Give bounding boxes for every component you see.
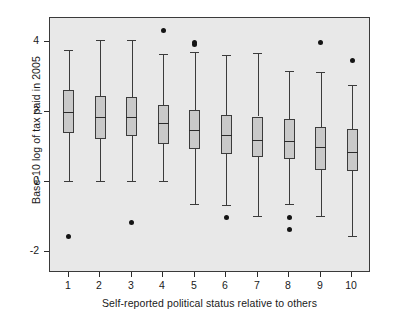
whisker-cap-lower	[253, 216, 262, 217]
whisker-cap-upper	[159, 54, 168, 55]
outlier-point	[66, 234, 71, 239]
x-axis-tick-label: 2	[87, 279, 111, 291]
whisker-cap-lower	[127, 181, 136, 182]
outlier-point	[192, 40, 197, 45]
whisker-cap-lower	[285, 204, 294, 205]
whisker-cap-upper	[222, 55, 231, 56]
whisker-cap-upper	[348, 85, 357, 86]
whisker-cap-lower	[348, 236, 357, 237]
outlier-point	[129, 220, 134, 225]
whisker-upper	[289, 71, 290, 119]
whisker-upper	[195, 52, 196, 110]
median-line	[63, 112, 74, 113]
x-axis-label: Self-reported political status relative …	[49, 297, 370, 309]
y-axis-tick-label: 0	[13, 174, 39, 186]
whisker-upper	[100, 40, 101, 96]
y-axis-tick-label: 2	[13, 104, 39, 116]
whisker-cap-upper	[127, 40, 136, 41]
outlier-point	[287, 215, 292, 220]
whisker-upper	[352, 85, 353, 129]
whisker-cap-upper	[96, 40, 105, 41]
y-axis-tick-mark	[44, 181, 49, 182]
y-axis-tick-label: -2	[13, 244, 39, 256]
box-iqr	[315, 127, 326, 170]
whisker-cap-upper	[285, 71, 294, 72]
whisker-cap-lower	[159, 181, 168, 182]
median-line	[126, 117, 137, 118]
median-line	[189, 130, 200, 131]
whisker-upper	[226, 55, 227, 116]
whisker-lower	[226, 154, 227, 205]
x-axis-tick-label: 3	[119, 279, 143, 291]
plot-area	[50, 18, 369, 271]
x-axis-tick-mark	[257, 272, 258, 277]
whisker-cap-upper	[316, 72, 325, 73]
whisker-cap-lower	[316, 216, 325, 217]
outlier-point	[287, 227, 292, 232]
median-line	[347, 152, 358, 153]
x-axis-tick-mark	[194, 272, 195, 277]
median-line	[221, 135, 232, 136]
whisker-lower	[258, 157, 259, 216]
whisker-cap-upper	[253, 53, 262, 54]
whisker-lower	[289, 159, 290, 204]
median-line	[284, 141, 295, 142]
whisker-upper	[163, 54, 164, 105]
whisker-cap-upper	[190, 52, 199, 53]
x-axis-tick-mark	[162, 272, 163, 277]
outlier-point	[161, 28, 166, 33]
x-axis-tick-label: 6	[213, 279, 237, 291]
box-iqr	[252, 117, 263, 158]
y-axis-tick-mark	[44, 251, 49, 252]
box-iqr	[158, 105, 169, 144]
x-axis-tick-mark	[131, 272, 132, 277]
x-axis-tick-mark	[99, 272, 100, 277]
x-axis-tick-label: 4	[150, 279, 174, 291]
whisker-cap-upper	[64, 50, 73, 51]
x-axis-tick-mark	[351, 272, 352, 277]
x-axis-tick-label: 5	[182, 279, 206, 291]
box-iqr	[284, 119, 295, 158]
x-axis-tick-mark	[68, 272, 69, 277]
whisker-lower	[100, 139, 101, 182]
x-axis-tick-mark	[288, 272, 289, 277]
whisker-lower	[132, 136, 133, 181]
whisker-upper	[258, 53, 259, 117]
whisker-cap-lower	[96, 181, 105, 182]
y-axis-tick-mark	[44, 111, 49, 112]
whisker-lower	[195, 149, 196, 204]
median-line	[158, 123, 169, 124]
whisker-lower	[352, 171, 353, 236]
x-axis-tick-label: 9	[308, 279, 332, 291]
whisker-upper	[321, 72, 322, 127]
outlier-point	[224, 215, 229, 220]
whisker-lower	[163, 144, 164, 182]
median-line	[252, 140, 263, 141]
x-axis-tick-label: 7	[245, 279, 269, 291]
whisker-cap-lower	[222, 205, 231, 206]
whisker-upper	[69, 50, 70, 90]
y-axis-tick-mark	[44, 41, 49, 42]
x-axis-tick-label: 10	[339, 279, 363, 291]
whisker-cap-lower	[190, 204, 199, 205]
whisker-upper	[132, 40, 133, 97]
box-iqr	[347, 129, 358, 171]
x-axis-tick-mark	[225, 272, 226, 277]
median-line	[315, 147, 326, 148]
x-axis-tick-mark	[320, 272, 321, 277]
y-axis-label: Base-10 log of tax paid in 2005	[30, 10, 42, 250]
whisker-cap-lower	[64, 181, 73, 182]
x-axis-tick-label: 8	[276, 279, 300, 291]
median-line	[95, 117, 106, 118]
boxplot-figure: Base-10 log of tax paid in 2005 -2024123…	[0, 0, 393, 321]
x-axis-tick-label: 1	[56, 279, 80, 291]
whisker-lower	[321, 170, 322, 216]
outlier-point	[318, 40, 323, 45]
whisker-lower	[69, 133, 70, 181]
outlier-point	[350, 58, 355, 63]
y-axis-tick-label: 4	[13, 34, 39, 46]
plot-panel	[49, 17, 370, 272]
